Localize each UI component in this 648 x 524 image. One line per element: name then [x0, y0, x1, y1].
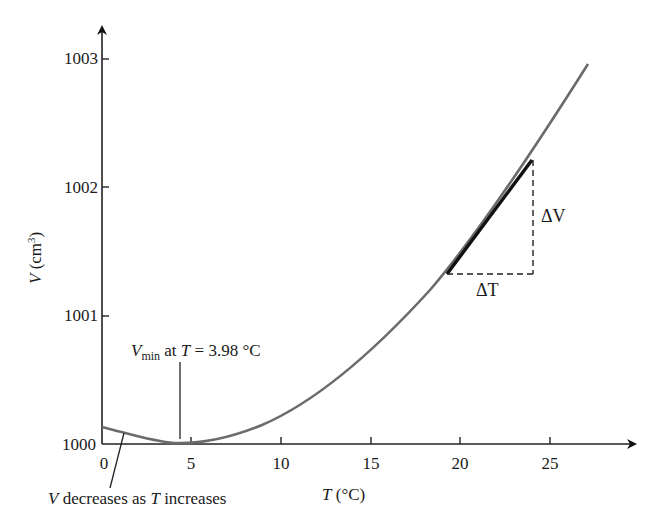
delta-t-label: ΔT — [476, 281, 499, 299]
decrease-annotation: V decreases as T increases — [48, 490, 226, 507]
y-tick-label: 1000 — [36, 436, 96, 453]
x-axis-label: T (°C) — [322, 486, 365, 503]
x-tick-label: 20 — [445, 455, 475, 472]
x-ticks — [191, 437, 550, 444]
chart-canvas — [0, 0, 648, 524]
y-ticks — [102, 59, 109, 316]
y-axis-label: V (cm3) — [26, 232, 44, 284]
y-tick-label: 1001 — [38, 307, 98, 324]
y-tick-label: 1003 — [38, 50, 98, 67]
x-tick-label: 15 — [356, 455, 386, 472]
x-tick-label: 25 — [535, 455, 565, 472]
delta-v-label: ΔV — [541, 207, 566, 225]
secant-segment — [447, 160, 532, 274]
vmin-annotation: Vmin at T = 3.98 °C — [131, 342, 261, 362]
x-tick-label: 0 — [89, 455, 119, 472]
x-tick-label: 5 — [176, 455, 206, 472]
y-tick-label: 1002 — [38, 179, 98, 196]
volume-curve — [102, 64, 588, 443]
x-tick-label: 10 — [266, 455, 296, 472]
